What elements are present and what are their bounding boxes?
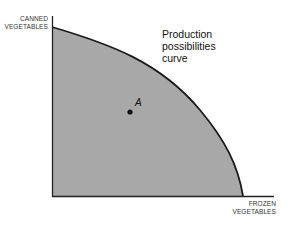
ppf-diagram (0, 0, 292, 229)
point-a-label: A (135, 97, 142, 108)
x-axis-label: FROZEN VEGETABLES (228, 200, 276, 216)
curve-label-line2: possibilities (162, 40, 216, 52)
y-axis-label-line2: VEGETABLES (4, 23, 48, 31)
curve-label-line1: Production (162, 28, 216, 40)
y-axis-label-line1: CANNED (4, 15, 48, 23)
curve-label: Production possibilities curve (162, 28, 216, 64)
point-a-marker (127, 109, 132, 114)
y-axis-label: CANNED VEGETABLES (4, 15, 48, 31)
curve-label-line3: curve (162, 52, 216, 64)
x-axis-label-line2: VEGETABLES (228, 208, 276, 216)
x-axis-label-line1: FROZEN (228, 200, 276, 208)
